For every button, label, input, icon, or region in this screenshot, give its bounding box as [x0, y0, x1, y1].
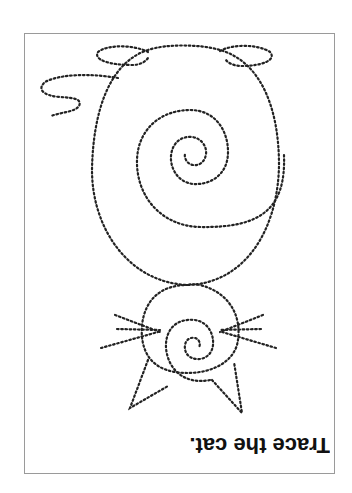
cat-whisker [101, 332, 158, 348]
cat-foot-left [97, 46, 148, 65]
cat-whisker [222, 332, 276, 348]
cat-tail [41, 75, 118, 116]
worksheet-instruction: Trace the cat. [175, 430, 330, 460]
cat-ear-right [212, 362, 242, 413]
worksheet-page: Trace the cat. [0, 0, 352, 493]
cat-whisker [220, 329, 261, 330]
cat-body-outline [92, 46, 279, 286]
cat-head-outline [142, 284, 239, 373]
cat-body-spiral [137, 110, 284, 227]
cat-tracing-figure [0, 0, 352, 493]
